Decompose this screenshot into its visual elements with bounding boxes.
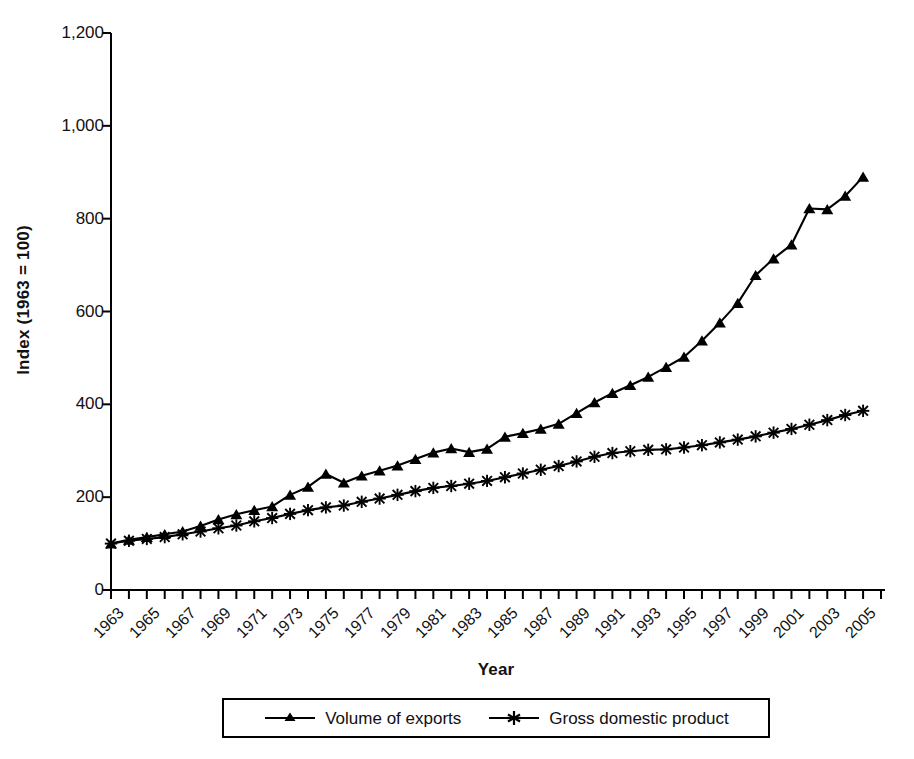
chart-legend: Volume of exports Gross domestic product bbox=[222, 698, 770, 738]
legend-item-volume-of-exports[interactable]: Volume of exports bbox=[263, 709, 461, 727]
asterisk-marker-icon bbox=[487, 709, 541, 727]
y-tick-label: 1,200 bbox=[20, 23, 104, 43]
plot-area bbox=[0, 0, 914, 759]
legend-label-gross-domestic-product: Gross domestic product bbox=[549, 710, 729, 727]
triangle-marker-icon bbox=[263, 709, 317, 727]
legend-item-gross-domestic-product[interactable]: Gross domestic product bbox=[487, 709, 729, 727]
y-tick-label: 0 bbox=[20, 580, 104, 600]
y-tick-label: 200 bbox=[20, 487, 104, 507]
y-tick-label: 1,000 bbox=[20, 116, 104, 136]
y-tick-label: 800 bbox=[20, 209, 104, 229]
y-tick-label: 400 bbox=[20, 394, 104, 414]
chart-figure: Index (1963 = 100) 02004006008001,0001,2… bbox=[0, 0, 914, 759]
y-tick-label: 600 bbox=[20, 302, 104, 322]
x-axis-title: Year bbox=[110, 660, 882, 680]
legend-label-volume-of-exports: Volume of exports bbox=[325, 710, 461, 727]
y-axis-tick-labels: 02004006008001,0001,200 bbox=[14, 0, 104, 620]
x-axis-title-text: Year bbox=[478, 660, 515, 679]
